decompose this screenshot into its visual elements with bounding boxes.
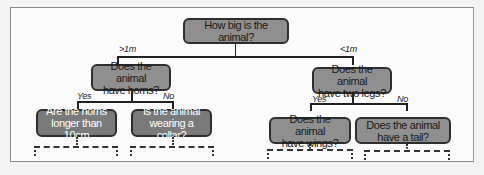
- edge-label-legs-yes: Yes: [312, 94, 326, 104]
- connector-legs-yes-drop: [310, 103, 312, 111]
- node-has-horns: Does the animal have horns?: [91, 64, 171, 91]
- node-horns-length: Are the horns longer than 10cm: [36, 109, 117, 137]
- node-wearing-collar: Is the animal wearing a collar?: [131, 109, 212, 137]
- node-horns-length-text: Are the horns longer than 10cm: [41, 105, 112, 141]
- connector-root-stem: [235, 44, 236, 56]
- connector-horns-horizontal: [77, 101, 173, 103]
- edge-label-horns-yes: Yes: [77, 91, 91, 101]
- edge-label-legs-no: No: [397, 94, 408, 104]
- node-has-tail-text: Does the animal have a tail?: [366, 119, 440, 143]
- node-two-legs: Does the animal have two legs?: [312, 67, 392, 94]
- connector-horns-stem: [131, 91, 133, 101]
- node-has-tail: Does the animal have a tail?: [355, 117, 451, 144]
- connector-legs-stem: [352, 94, 354, 103]
- connector-level1-horizontal: [117, 56, 353, 58]
- edge-label-greater-1m: >1m: [119, 44, 136, 54]
- edge-label-horns-no: No: [163, 91, 174, 101]
- node-root-text: How big is the animal?: [188, 19, 284, 43]
- node-wearing-collar-text: Is the animal wearing a collar?: [136, 105, 207, 141]
- connector-legs-no-drop: [406, 103, 408, 111]
- edge-label-less-1m: <1m: [340, 44, 357, 54]
- node-root: How big is the animal?: [183, 18, 289, 44]
- node-has-wings: Does the animal have wings?: [269, 117, 351, 144]
